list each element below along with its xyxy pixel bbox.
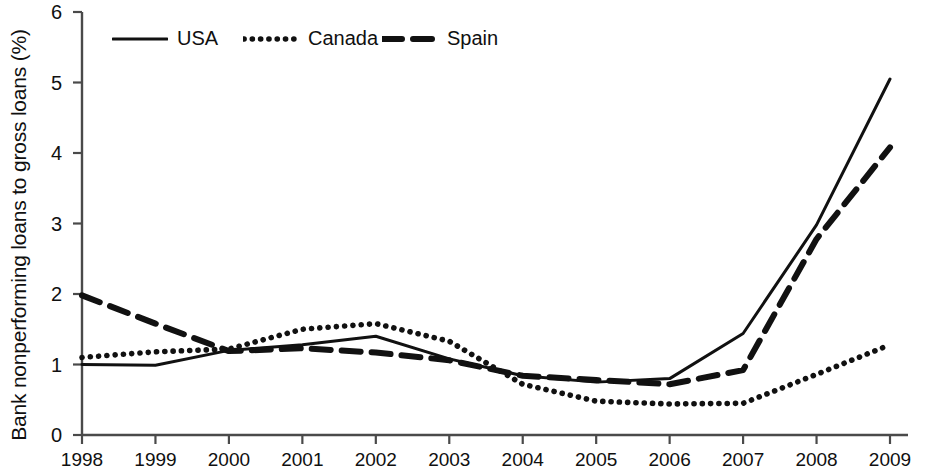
- legend-label: Canada: [308, 27, 378, 50]
- legend-key-solid-icon: [112, 32, 168, 46]
- plot-area: [0, 0, 931, 470]
- legend-key-dashed-icon: [382, 32, 438, 46]
- legend-item-spain[interactable]: Spain: [382, 27, 498, 50]
- series-line-canada: [82, 324, 890, 404]
- series-line-usa: [82, 79, 890, 382]
- legend-item-canada[interactable]: Canada: [243, 27, 378, 50]
- chart-figure: Bank nonperforming loans to gross loans …: [0, 0, 931, 470]
- legend-key-dotted-icon: [243, 32, 299, 46]
- axis-lines: [73, 12, 908, 444]
- legend-label: USA: [177, 27, 218, 50]
- legend-label: Spain: [447, 27, 498, 50]
- series-line-spain: [82, 147, 890, 384]
- legend-item-usa[interactable]: USA: [112, 27, 218, 50]
- data-series-layer: [82, 79, 890, 404]
